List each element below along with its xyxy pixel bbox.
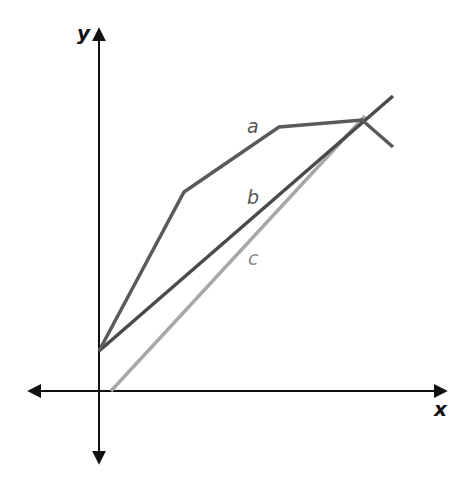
x-axis-label: x (433, 397, 448, 421)
line-b (99, 96, 393, 351)
graph-diagram: a b c y x (0, 0, 470, 480)
line-a (99, 120, 393, 351)
line-a-label: a (247, 115, 259, 137)
y-axis-label: y (77, 21, 91, 45)
line-c (111, 116, 365, 391)
line-c-label: c (248, 247, 259, 269)
line-b-label: b (247, 186, 259, 208)
